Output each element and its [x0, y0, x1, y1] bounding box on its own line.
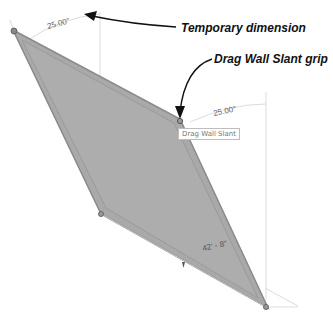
edge-grip-bottom[interactable]	[182, 262, 185, 268]
drag-wall-slant-grip[interactable]	[177, 118, 182, 123]
corner-grip-left[interactable]	[99, 212, 104, 217]
slanted-wall[interactable]	[13, 30, 268, 308]
right-angle-dimension: 25.00°	[213, 104, 238, 118]
temporary-dimension-callout: Temporary dimension	[181, 21, 306, 35]
wall-slant-diagram: 25.00° 25.00° 42' - 8"	[0, 0, 333, 319]
corner-grip-top-left[interactable]	[11, 28, 17, 34]
drag-wall-slant-grip-callout: Drag Wall Slant grip	[214, 52, 328, 66]
corner-grip-bottom[interactable]	[264, 305, 269, 310]
drag-wall-slant-tooltip: Drag Wall Slant	[178, 128, 240, 140]
top-angle-dimension: 25.00°	[46, 16, 71, 31]
